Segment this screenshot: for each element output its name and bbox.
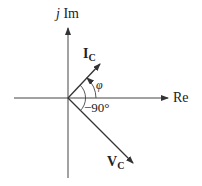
voltage-symbol: V: [107, 154, 117, 169]
voltage-phasor-label: VC: [107, 155, 124, 171]
phasor-diagram: j Im Re IC φ −90° VC: [0, 0, 202, 186]
im-text: Im: [63, 6, 79, 21]
phi-angle-label: φ: [96, 79, 103, 91]
minus-90-angle-label: −90°: [84, 101, 110, 114]
imaginary-axis-label: j Im: [56, 7, 79, 21]
phi-angle-arc: [87, 78, 96, 98]
current-subscript: C: [88, 52, 95, 63]
j-symbol: j: [56, 6, 60, 21]
diagram-graphics: [0, 0, 202, 186]
voltage-subscript: C: [117, 160, 124, 171]
real-axis-label: Re: [173, 91, 189, 105]
current-phasor-label: IC: [83, 47, 96, 63]
